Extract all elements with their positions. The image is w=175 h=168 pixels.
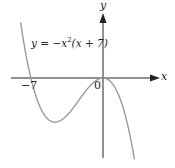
tick-label-origin: 0: [94, 79, 101, 92]
equation-prefix: y = −x: [31, 37, 67, 49]
x-axis-arrow-icon: [150, 75, 160, 82]
x-axis-label: x: [161, 70, 167, 83]
equation-suffix: (x + 7): [72, 37, 108, 49]
y-axis-arrow-icon: [100, 13, 107, 23]
y-axis-label: y: [100, 0, 106, 12]
graph-figure: y x −7 0 y = −x2(x + 7): [0, 0, 175, 168]
tick-label-neg7: −7: [21, 79, 37, 92]
equation-label: y = −x2(x + 7): [31, 36, 108, 49]
